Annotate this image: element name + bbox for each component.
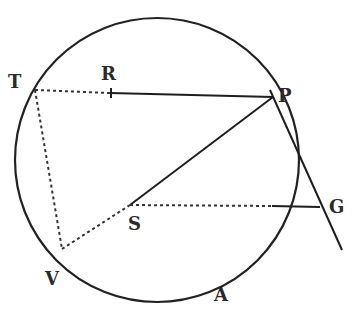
geometry-diagram: T R P S G V A [0, 0, 360, 321]
line-VS [62, 205, 130, 249]
line-SP [130, 97, 273, 205]
line-TR [35, 90, 110, 93]
label-V: V [44, 268, 60, 289]
label-R: R [101, 63, 117, 84]
label-S: S [128, 213, 141, 234]
line-RP [110, 93, 273, 97]
circle [15, 18, 299, 302]
label-G: G [329, 196, 344, 217]
line-TV [35, 90, 62, 249]
line-SG-solid [272, 206, 320, 207]
label-T: T [8, 71, 22, 92]
line-SG-dotted [130, 205, 272, 206]
label-A: A [213, 284, 229, 305]
label-P: P [278, 85, 292, 106]
tangent-line [270, 90, 342, 250]
